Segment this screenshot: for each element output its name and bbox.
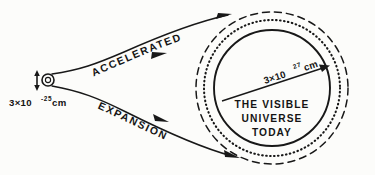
present-radius-label: 3×10 27 cm xyxy=(261,56,319,86)
initial-singularity-inner xyxy=(45,77,50,82)
upper-funnel-curve xyxy=(52,15,228,74)
cosmic-expansion-figure: ACCELERATED EXPANSION THE VISIBLE UNIVER… xyxy=(0,0,375,175)
initial-size-coefficient: 3×10 xyxy=(9,97,32,108)
upper-curve-arrowhead xyxy=(151,52,167,59)
accelerated-label: ACCELERATED xyxy=(90,30,184,78)
initial-size-arrow-up xyxy=(34,70,40,76)
ring-bottom-arrowhead xyxy=(224,150,240,158)
initial-size-exponent: -25 xyxy=(41,95,52,102)
lower-curve-arrowhead xyxy=(153,114,169,122)
initial-singularity-circle xyxy=(42,74,54,86)
initial-size-label: 3×10 -25 cm xyxy=(9,95,66,109)
universe-label-line-3: TODAY xyxy=(252,127,292,138)
universe-label-line-2: UNIVERSE xyxy=(242,113,303,124)
initial-size-unit: cm xyxy=(52,97,66,108)
accelerated-label-text: ACCELERATED xyxy=(90,30,184,78)
figure-canvas: ACCELERATED EXPANSION THE VISIBLE UNIVER… xyxy=(0,0,375,175)
initial-size-arrow-down xyxy=(34,85,40,91)
universe-label-line-1: THE VISIBLE xyxy=(235,99,310,110)
dashed-ring xyxy=(196,12,348,164)
ring-top-arrowhead xyxy=(216,13,232,19)
present-radius-exponent: 27 xyxy=(292,61,302,70)
